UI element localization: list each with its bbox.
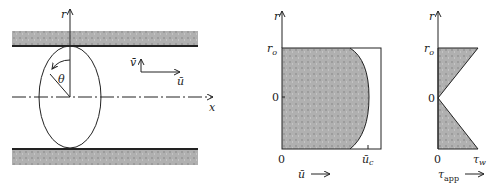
v-velocity-label: v̄ bbox=[130, 56, 137, 69]
stress-zero-origin-label: 0 bbox=[434, 153, 441, 166]
theta-arc bbox=[52, 60, 70, 69]
velocity-ro-label: ro bbox=[267, 42, 277, 57]
stress-xlabel: τapp bbox=[438, 168, 459, 183]
velocity-xlabel: ū bbox=[298, 168, 305, 181]
stress-lower-triangle bbox=[438, 98, 478, 149]
velocity-r-label: r bbox=[274, 10, 280, 23]
velocity-zero-origin-label: 0 bbox=[278, 153, 285, 166]
pipe-flow-diagram: r x θ v̄ ū r ro 0 0 ūc ū r ro 0 0 τw bbox=[0, 0, 490, 190]
flow-panel: r x θ v̄ ū bbox=[12, 8, 216, 165]
stress-zero-mid-label: 0 bbox=[428, 92, 435, 105]
stress-upper-triangle bbox=[438, 48, 478, 98]
top-wall-shading bbox=[12, 31, 198, 45]
stress-ro-label: ro bbox=[424, 42, 434, 57]
u-velocity-label: ū bbox=[177, 75, 184, 88]
velocity-zero-mid-label: 0 bbox=[272, 91, 279, 104]
bottom-wall-shading bbox=[12, 150, 198, 165]
stress-tw-label: τw bbox=[473, 153, 486, 167]
r-axis-label: r bbox=[61, 8, 67, 21]
velocity-uc-label: ūc bbox=[362, 153, 374, 167]
theta-label: θ bbox=[58, 73, 65, 86]
x-axis-label: x bbox=[209, 101, 216, 114]
stress-r-label: r bbox=[429, 10, 435, 23]
velocity-profile-panel: r ro 0 0 ūc ū bbox=[267, 10, 381, 181]
shear-stress-panel: r ro 0 0 τw τapp bbox=[424, 10, 486, 183]
velocity-profile-fill bbox=[282, 48, 369, 149]
